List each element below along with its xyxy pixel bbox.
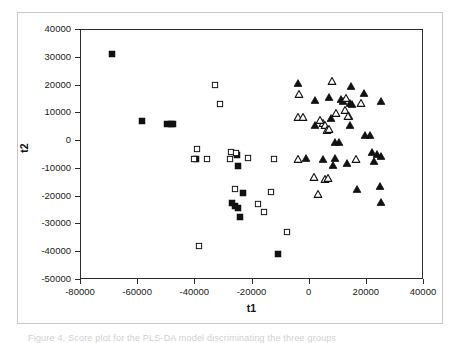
x-axis-title: t1 (80, 302, 423, 314)
x-axis-tick-label: 20000 (353, 287, 379, 297)
y-axis-tick-label: -50000 (41, 274, 71, 284)
data-point-open-triangle (294, 90, 303, 98)
x-axis-tick (309, 279, 310, 284)
data-point-open-square (216, 101, 223, 108)
plot-area (80, 29, 423, 279)
x-axis-tick (194, 279, 195, 284)
x-axis-tick (137, 279, 138, 284)
data-point-open-square (203, 155, 210, 162)
data-point-filled-triangle (375, 182, 384, 190)
data-markers-layer (81, 30, 422, 278)
data-point-filled-triangle (342, 159, 351, 167)
y-axis-tick-label: 0 (66, 135, 71, 145)
data-point-open-square (194, 146, 201, 153)
data-point-filled-triangle (302, 154, 311, 162)
data-point-filled-triangle (310, 96, 319, 104)
x-axis-tick-label: -60000 (122, 287, 152, 297)
data-point-open-triangle (299, 113, 308, 121)
data-point-filled-square (170, 121, 177, 128)
y-axis-tick-label: 30000 (45, 52, 71, 62)
data-point-open-triangle (324, 174, 333, 182)
data-point-filled-triangle (347, 82, 356, 90)
data-point-open-triangle (341, 94, 350, 102)
data-point-filled-square (234, 163, 241, 170)
data-point-open-triangle (356, 99, 365, 107)
y-axis-tick-label: 40000 (45, 24, 71, 34)
x-axis-tick (423, 279, 424, 284)
data-point-open-square (196, 242, 203, 249)
data-point-filled-triangle (377, 97, 386, 105)
data-point-open-square (270, 155, 277, 162)
data-point-open-square (231, 185, 238, 192)
x-axis-tick (252, 279, 253, 284)
data-point-filled-square (240, 190, 247, 197)
data-point-filled-triangle (293, 79, 302, 87)
data-point-filled-triangle (365, 131, 374, 139)
data-point-open-square (267, 188, 274, 195)
y-axis-tick-label: -30000 (41, 218, 71, 228)
data-point-filled-square (109, 50, 116, 57)
data-point-filled-square (274, 250, 281, 257)
figure-caption-text: Figure 4. Score plot for the PLS-DA mode… (28, 334, 432, 343)
data-point-open-square (283, 229, 290, 236)
y-axis-tick-label: 20000 (45, 80, 71, 90)
data-point-open-triangle (294, 155, 303, 163)
data-point-open-square (190, 155, 197, 162)
data-point-filled-triangle (330, 154, 339, 162)
x-axis-tick-label: -40000 (180, 287, 210, 297)
data-point-filled-triangle (369, 157, 378, 165)
data-point-filled-triangle (359, 89, 368, 97)
x-axis-tick-label: 0 (306, 287, 311, 297)
data-point-filled-triangle (377, 198, 386, 206)
data-point-open-square (232, 150, 239, 157)
data-point-filled-triangle (334, 138, 343, 146)
data-point-filled-square (234, 205, 241, 212)
data-point-open-square (260, 208, 267, 215)
x-axis-tick-label: -20000 (237, 287, 267, 297)
data-point-open-square (212, 81, 219, 88)
data-point-filled-triangle (345, 121, 354, 129)
data-point-open-square (254, 200, 261, 207)
scatter-plot-figure: 400003000020000100000-10000-20000-30000-… (0, 0, 460, 343)
data-point-filled-triangle (318, 155, 327, 163)
data-point-open-square (245, 155, 252, 162)
data-point-open-triangle (315, 116, 324, 124)
x-axis-tick (80, 279, 81, 284)
data-point-filled-square (237, 213, 244, 220)
data-point-filled-square (139, 118, 146, 125)
data-point-open-triangle (331, 109, 340, 117)
data-point-open-triangle (314, 190, 323, 198)
y-axis-tick-label: -10000 (41, 163, 71, 173)
y-axis-tick-label: -20000 (41, 191, 71, 201)
data-point-open-triangle (351, 155, 360, 163)
data-point-open-triangle (309, 173, 318, 181)
y-axis-tick-label: 10000 (45, 107, 71, 117)
data-point-open-triangle (324, 125, 333, 133)
data-point-filled-triangle (325, 93, 334, 101)
x-axis-tick (366, 279, 367, 284)
x-axis-tick-label: 40000 (410, 287, 436, 297)
data-point-filled-triangle (352, 185, 361, 193)
y-axis-tick-label: -40000 (41, 246, 71, 256)
figure-caption-cropped: Figure 4. Score plot for the PLS-DA mode… (28, 334, 432, 343)
data-point-open-triangle (327, 77, 336, 85)
data-point-open-triangle (343, 112, 352, 120)
x-axis-tick-label: -80000 (65, 287, 95, 297)
y-axis-title: t2 (18, 143, 30, 152)
